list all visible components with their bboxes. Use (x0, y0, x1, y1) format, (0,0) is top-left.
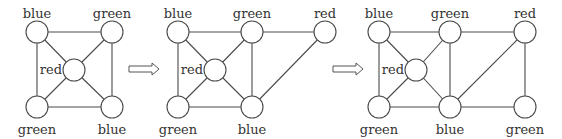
node-label-b: green (431, 6, 470, 21)
node-label-a: blue (365, 6, 394, 21)
node-f (314, 21, 336, 43)
node-d (167, 96, 189, 118)
graph-1: bluegreenredgreenblue (18, 6, 132, 137)
node-b (241, 21, 263, 43)
node-label-b: green (93, 6, 132, 21)
node-g (514, 96, 536, 118)
node-e (241, 96, 263, 118)
node-label-g: green (506, 122, 545, 137)
node-label-a: blue (23, 6, 52, 21)
node-label-e: blue (436, 122, 465, 137)
node-f (514, 21, 536, 43)
node-b (101, 21, 123, 43)
node-d (26, 96, 48, 118)
node-label-e: blue (98, 122, 127, 137)
node-label-a: blue (164, 6, 193, 21)
edge-e-f (252, 32, 325, 107)
node-b (439, 21, 461, 43)
node-label-c: red (181, 62, 203, 77)
node-label-f: red (514, 6, 536, 21)
graph-3: bluegreenredredgreenbluegreen (360, 6, 545, 137)
node-label-b: green (233, 6, 272, 21)
node-c (63, 59, 85, 81)
node-label-f: red (314, 6, 336, 21)
node-label-d: green (18, 122, 57, 137)
arrow-2-right-arrow-icon (333, 63, 363, 75)
diagram-canvas: bluegreenredgreenblue bluegreenredredgre… (0, 0, 562, 139)
node-e (439, 96, 461, 118)
graph-coloring-diagram: bluegreenredgreenblue bluegreenredredgre… (0, 0, 562, 139)
node-label-d: green (159, 122, 198, 137)
node-c (204, 59, 226, 81)
node-c (405, 59, 427, 81)
node-a (26, 21, 48, 43)
node-e (101, 96, 123, 118)
graph-2: bluegreenredredgreenblue (159, 6, 336, 137)
node-d (368, 96, 390, 118)
node-a (167, 21, 189, 43)
node-a (368, 21, 390, 43)
node-label-d: green (360, 122, 399, 137)
transition-arrows (129, 63, 363, 75)
node-label-e: blue (238, 122, 267, 137)
edge-e-f (450, 32, 525, 107)
node-label-c: red (382, 62, 404, 77)
arrow-1-right-arrow-icon (129, 63, 159, 75)
node-label-c: red (40, 62, 62, 77)
